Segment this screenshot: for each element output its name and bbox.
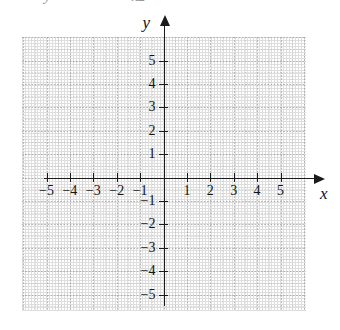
x-axis-tick — [93, 173, 94, 182]
y-axis-tick-label: 4 — [128, 77, 156, 91]
y-axis-tick — [159, 224, 168, 225]
y-axis-tick-label: 1 — [128, 147, 156, 161]
y-axis-tick — [159, 84, 168, 85]
y-axis-tick-label: 5 — [128, 54, 156, 68]
x-axis-tick — [187, 173, 188, 182]
y-axis-tick-label: −2 — [128, 217, 156, 231]
x-axis-tick-label: −4 — [60, 184, 80, 198]
y-axis-tick-label: −3 — [128, 241, 156, 255]
y-axis-tick — [159, 107, 168, 108]
coordinate-plane: −5−4−3−2−112345−5−4−3−2−112345 x y — [0, 0, 340, 330]
x-axis-tick — [257, 173, 258, 182]
y-axis-line — [164, 24, 165, 306]
x-axis-tick-label: 2 — [200, 184, 220, 198]
x-axis-tick — [210, 173, 211, 182]
x-axis-tick-label: 5 — [271, 184, 291, 198]
x-axis-tick — [140, 173, 141, 182]
x-axis-label: x — [320, 185, 328, 202]
x-axis-tick-label: 4 — [247, 184, 267, 198]
x-axis-tick — [70, 173, 71, 182]
y-axis-arrow-icon — [160, 15, 170, 26]
x-axis-tick — [117, 173, 118, 182]
y-axis-tick — [159, 201, 168, 202]
y-axis-tick-label: −5 — [128, 288, 156, 302]
y-axis-tick — [159, 61, 168, 62]
y-axis-tick-label: −4 — [128, 264, 156, 278]
y-axis-tick-label: −1 — [128, 194, 156, 208]
figure-canvas: y x2 −5−4−3−2−112345−5−4−3−2−112345 x y — [0, 0, 340, 330]
x-axis-tick-label: −5 — [37, 184, 57, 198]
y-axis-label: y — [143, 14, 151, 31]
y-axis-tick — [159, 154, 168, 155]
y-axis-tick — [159, 295, 168, 296]
x-axis-tick-label: −2 — [107, 184, 127, 198]
x-axis-tick — [281, 173, 282, 182]
x-axis-tick — [47, 173, 48, 182]
y-axis-tick — [159, 131, 168, 132]
y-axis-tick-label: 2 — [128, 124, 156, 138]
x-axis-tick — [234, 173, 235, 182]
x-axis-arrow-icon — [314, 174, 325, 184]
y-axis-tick — [159, 248, 168, 249]
x-axis-tick-label: −3 — [83, 184, 103, 198]
y-axis-tick-label: 3 — [128, 100, 156, 114]
x-axis-tick-label: 1 — [177, 184, 197, 198]
x-axis-tick-label: 3 — [224, 184, 244, 198]
x-axis-line — [44, 178, 316, 179]
y-axis-tick — [159, 271, 168, 272]
